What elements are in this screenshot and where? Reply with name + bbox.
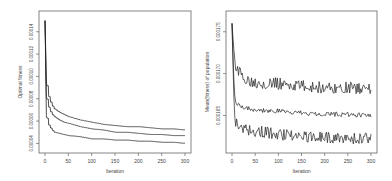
series-line-upper [232, 23, 371, 93]
x-tick-label: 250 [157, 158, 166, 164]
x-tick-label: 200 [134, 158, 143, 164]
x-axis-title: Iteration [106, 168, 124, 174]
y-tick-label: 0.000165 [216, 106, 221, 125]
optimal-fitness-plot: 0501001502002503000.000040.000060.000080… [0, 0, 196, 181]
y-tick-label: 0.00014 [29, 23, 34, 40]
y-axis-title: Mean(fitness) of population [204, 52, 210, 113]
x-tick-label: 0 [44, 158, 47, 164]
series-line-upper [45, 21, 185, 130]
y-tick-label: 0.000175 [216, 22, 221, 41]
x-tick-label: 50 [66, 158, 72, 164]
series-line-mean [232, 23, 371, 117]
y-axis-title: Optimal fitness [17, 65, 23, 99]
x-tick-label: 150 [297, 158, 306, 164]
x-tick-label: 300 [181, 158, 190, 164]
y-tick-label: 0.000170 [216, 64, 221, 83]
y-tick-label: 0.00006 [29, 112, 34, 129]
series-line-lower [45, 21, 185, 144]
plot-frame [39, 11, 191, 153]
x-tick-label: 200 [320, 158, 329, 164]
x-tick-label: 100 [274, 158, 283, 164]
y-tick-label: 0.00008 [29, 90, 34, 107]
x-tick-label: 100 [87, 158, 96, 164]
series-line-mean [45, 21, 185, 136]
optimal-fitness-chart: 0501001502002503000.000040.000060.000080… [0, 0, 196, 181]
y-tick-label: 0.00010 [29, 68, 34, 85]
mean-fitness-plot: 0501001502002503000.0001650.0001700.0001… [196, 0, 392, 181]
y-tick-label: 0.00012 [29, 45, 34, 62]
x-tick-label: 50 [252, 158, 258, 164]
y-tick-label: 0.00004 [29, 135, 34, 152]
x-tick-label: 300 [367, 158, 376, 164]
x-axis-title: Iteration [292, 168, 310, 174]
x-tick-label: 0 [231, 158, 234, 164]
mean-fitness-chart: 0501001502002503000.0001650.0001700.0001… [196, 0, 392, 181]
x-tick-label: 250 [344, 158, 353, 164]
x-tick-label: 150 [111, 158, 120, 164]
